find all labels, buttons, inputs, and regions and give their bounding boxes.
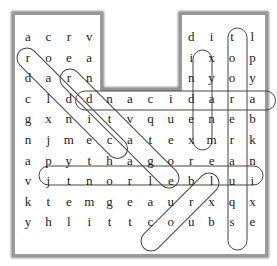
grid-cell[interactable]: a xyxy=(242,89,262,109)
grid-cell[interactable]: d xyxy=(181,89,201,109)
grid-cell[interactable]: j xyxy=(38,130,58,150)
grid-cell[interactable]: l xyxy=(202,171,222,191)
grid-cell[interactable]: j xyxy=(38,171,58,191)
grid-cell[interactable]: n xyxy=(181,68,201,88)
grid-cell[interactable]: b xyxy=(242,109,262,129)
grid-cell[interactable]: x xyxy=(38,109,58,129)
grid-cell[interactable]: l xyxy=(242,27,262,47)
grid-cell[interactable]: g xyxy=(18,109,38,129)
grid-cell[interactable]: k xyxy=(18,192,38,212)
grid-cell[interactable]: d xyxy=(59,89,79,109)
grid-cell[interactable]: g xyxy=(140,151,160,171)
grid-cell[interactable]: g xyxy=(100,192,120,212)
grid-cell[interactable]: i xyxy=(202,27,222,47)
grid-cell[interactable]: t xyxy=(59,171,79,191)
grid-cell[interactable]: e xyxy=(161,130,181,150)
grid-cell[interactable]: b xyxy=(181,171,201,191)
grid-cell[interactable]: o xyxy=(38,48,58,68)
grid-cell[interactable]: i xyxy=(79,212,99,232)
grid-cell[interactable]: t xyxy=(140,130,160,150)
grid-cell[interactable]: l xyxy=(59,212,79,232)
grid-cell[interactable]: t xyxy=(120,212,140,232)
grid-cell[interactable]: c xyxy=(38,27,58,47)
grid-cell[interactable]: t xyxy=(79,151,99,171)
grid-cell[interactable]: k xyxy=(242,130,262,150)
grid-cell[interactable]: e xyxy=(79,130,99,150)
grid-cell[interactable]: r xyxy=(18,48,38,68)
grid-cell[interactable]: d xyxy=(18,68,38,88)
grid-cell[interactable]: x xyxy=(242,192,262,212)
grid-cell[interactable]: a xyxy=(222,151,242,171)
grid-cell[interactable]: p xyxy=(38,151,58,171)
grid-cell[interactable]: y xyxy=(202,68,222,88)
grid-cell[interactable]: q xyxy=(222,192,242,212)
grid-cell[interactable]: h xyxy=(38,212,58,232)
grid-cell[interactable]: s xyxy=(222,212,242,232)
grid-cell[interactable]: c xyxy=(100,130,120,150)
grid-cell[interactable]: e xyxy=(202,151,222,171)
grid-cell[interactable]: i xyxy=(181,48,201,68)
grid-cell[interactable]: l xyxy=(140,171,160,191)
grid-cell[interactable]: n xyxy=(79,171,99,191)
grid-cell[interactable]: a xyxy=(18,151,38,171)
grid-cell[interactable]: u xyxy=(222,171,242,191)
grid-cell[interactable]: c xyxy=(140,89,160,109)
grid-cell[interactable]: n xyxy=(79,68,99,88)
grid-cell[interactable]: q xyxy=(140,109,160,129)
grid-cell[interactable]: i xyxy=(79,109,99,129)
grid-cell[interactable]: r xyxy=(59,68,79,88)
grid-cell[interactable]: a xyxy=(120,89,140,109)
grid-cell[interactable]: o xyxy=(161,151,181,171)
grid-cell[interactable]: i xyxy=(242,171,262,191)
grid-cell[interactable]: r xyxy=(120,171,140,191)
grid-cell[interactable]: o xyxy=(222,48,242,68)
grid-cell[interactable]: a xyxy=(79,48,99,68)
grid-cell[interactable]: t xyxy=(100,212,120,232)
grid-cell[interactable]: e xyxy=(161,171,181,191)
grid-cell[interactable]: a xyxy=(18,27,38,47)
grid-cell[interactable]: c xyxy=(140,212,160,232)
grid-cell[interactable]: o xyxy=(161,212,181,232)
grid-cell[interactable]: i xyxy=(161,89,181,109)
grid-cell[interactable]: u xyxy=(181,212,201,232)
grid-cell[interactable]: r xyxy=(181,192,201,212)
grid-cell[interactable]: a xyxy=(202,89,222,109)
grid-cell[interactable]: r xyxy=(222,130,242,150)
grid-cell[interactable]: y xyxy=(18,212,38,232)
grid-cell[interactable]: a xyxy=(120,151,140,171)
grid-cell[interactable]: a xyxy=(120,130,140,150)
grid-cell[interactable]: y xyxy=(242,68,262,88)
grid-cell[interactable]: r xyxy=(59,27,79,47)
grid-cell[interactable]: c xyxy=(18,89,38,109)
grid-cell[interactable]: t xyxy=(38,192,58,212)
grid-cell[interactable]: e xyxy=(222,109,242,129)
grid-cell[interactable]: d xyxy=(181,27,201,47)
grid-cell[interactable]: o xyxy=(222,68,242,88)
grid-cell[interactable]: b xyxy=(202,212,222,232)
grid-cell[interactable]: n xyxy=(59,109,79,129)
grid-cell[interactable]: e xyxy=(59,48,79,68)
grid-cell[interactable]: v xyxy=(120,109,140,129)
grid-cell[interactable]: v xyxy=(79,27,99,47)
grid-cell[interactable]: e xyxy=(181,109,201,129)
grid-cell[interactable]: e xyxy=(120,192,140,212)
grid-cell[interactable]: x xyxy=(181,130,201,150)
grid-cell[interactable]: m xyxy=(202,130,222,150)
grid-cell[interactable]: a xyxy=(140,192,160,212)
grid-cell[interactable]: r xyxy=(222,89,242,109)
grid-cell[interactable]: e xyxy=(242,212,262,232)
grid-cell[interactable]: o xyxy=(100,171,120,191)
grid-cell[interactable]: r xyxy=(181,151,201,171)
grid-cell[interactable]: t xyxy=(222,27,242,47)
grid-cell[interactable]: d xyxy=(79,89,99,109)
grid-cell[interactable]: e xyxy=(59,192,79,212)
grid-cell[interactable]: x xyxy=(202,192,222,212)
grid-cell[interactable]: n xyxy=(202,109,222,129)
grid-cell[interactable]: a xyxy=(38,68,58,88)
grid-cell[interactable]: m xyxy=(79,192,99,212)
grid-cell[interactable]: v xyxy=(18,171,38,191)
grid-cell[interactable]: x xyxy=(202,48,222,68)
grid-cell[interactable]: m xyxy=(59,130,79,150)
grid-cell[interactable]: n xyxy=(100,89,120,109)
grid-cell[interactable]: t xyxy=(100,109,120,129)
